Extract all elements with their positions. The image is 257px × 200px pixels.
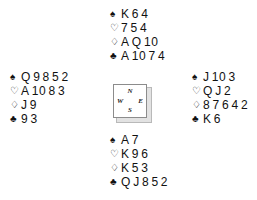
card-rank: A [121,49,130,63]
card-ranks: K96 [121,147,149,161]
card-rank: J [215,84,222,98]
card-ranks: A7 [121,133,139,147]
card-ranks: J9 [21,98,37,112]
diamonds-icon: ♢ [192,98,203,112]
card-rank: J [203,70,210,84]
card-rank: 7 [149,49,156,63]
suit-line-clubs: ♣A1074 [110,49,165,63]
card-rank: 8 [203,98,210,112]
suit-line-spades: ♠A7 [110,133,168,147]
diamonds-icon: ♢ [110,161,121,175]
hand-south: ♠A7♡K96♢K53♣QJ852 [110,133,168,189]
suit-line-hearts: ♡A1083 [10,84,69,98]
card-rank: 9 [21,112,28,126]
hearts-icon: ♡ [110,147,121,161]
card-rank: 8 [49,84,56,98]
card-rank: 9 [132,147,139,161]
suit-line-diamonds: ♢J9 [10,98,69,112]
card-rank: 2 [161,175,168,189]
card-rank: Q [121,175,131,189]
suit-line-hearts: ♡K96 [110,147,168,161]
card-rank: 4 [140,21,147,35]
card-ranks: A1083 [21,84,65,98]
card-rank: 10 [132,49,147,63]
hearts-icon: ♡ [192,84,203,98]
diamonds-icon: ♢ [10,98,21,112]
card-rank: K [121,7,130,21]
suit-line-hearts: ♡QJ2 [192,84,248,98]
card-rank: 5 [151,175,158,189]
suit-line-spades: ♠Q9852 [10,70,69,84]
suit-line-spades: ♠K64 [110,7,165,21]
card-rank: 5 [132,161,139,175]
card-rank: 4 [141,7,148,21]
card-rank: 2 [62,70,69,84]
compass-box: N E S W [113,84,149,120]
card-rank: 6 [132,7,139,21]
compass-label-south: S [128,107,132,114]
hearts-icon: ♡ [10,84,21,98]
suit-line-diamonds: ♢K53 [110,161,168,175]
suit-line-hearts: ♡754 [110,21,165,35]
card-rank: K [121,147,130,161]
card-ranks: A1074 [121,49,165,63]
suit-line-diamonds: ♢AQ10 [110,35,165,49]
card-ranks: K6 [203,112,221,126]
card-rank: 9 [30,98,37,112]
card-rank: A [121,133,130,147]
card-rank: 3 [141,161,148,175]
card-rank: 10 [144,35,159,49]
compass-label-east: E [138,98,143,105]
card-rank: 2 [224,84,231,98]
card-ranks: 87642 [203,98,248,112]
card-rank: K [203,112,212,126]
card-rank: J [133,175,140,189]
card-ranks: 93 [21,112,38,126]
card-rank: K [121,161,130,175]
suit-line-spades: ♠J103 [192,70,248,84]
card-rank: 8 [142,175,149,189]
spades-icon: ♠ [110,133,121,147]
hand-east: ♠J103♡QJ2♢87642♣K6 [192,70,248,126]
clubs-icon: ♣ [110,49,121,63]
card-rank: 10 [32,84,47,98]
spades-icon: ♠ [10,70,21,84]
spades-icon: ♠ [110,7,121,21]
card-rank: J [21,98,28,112]
card-ranks: J103 [203,70,236,84]
card-rank: 7 [121,21,128,35]
suit-line-clubs: ♣93 [10,112,69,126]
card-rank: 7 [132,133,139,147]
hearts-icon: ♡ [110,21,121,35]
card-rank: Q [132,35,142,49]
hand-west: ♠Q9852♡A1083♢J9♣93 [10,70,69,126]
compass-label-north: N [127,88,132,95]
clubs-icon: ♣ [110,175,121,189]
card-rank: 3 [30,112,37,126]
card-ranks: AQ10 [121,35,158,49]
card-rank: 6 [141,147,148,161]
card-rank: 8 [43,70,50,84]
card-rank: Q [21,70,31,84]
card-rank: A [121,35,130,49]
card-rank: 6 [222,98,229,112]
card-rank: 6 [214,112,221,126]
card-rank: 3 [229,70,236,84]
card-ranks: 754 [121,21,147,35]
suit-line-clubs: ♣QJ852 [110,175,168,189]
hand-north: ♠K64♡754♢AQ10♣A1074 [110,7,165,63]
spades-icon: ♠ [192,70,203,84]
card-ranks: Q9852 [21,70,69,84]
card-ranks: K53 [121,161,149,175]
compass-box-face: N E S W [113,84,147,118]
suit-line-clubs: ♣K6 [192,112,248,126]
card-rank: A [21,84,30,98]
compass-label-west: W [117,98,123,105]
clubs-icon: ♣ [10,112,21,126]
card-rank: Q [203,84,213,98]
card-rank: 10 [212,70,227,84]
card-ranks: QJ852 [121,175,168,189]
suit-line-diamonds: ♢87642 [192,98,248,112]
card-rank: 7 [212,98,219,112]
card-rank: 2 [241,98,248,112]
